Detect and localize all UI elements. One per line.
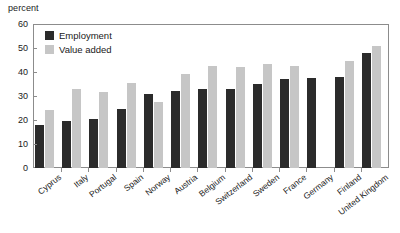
bar-cyprus-value-added	[45, 110, 54, 168]
y-axis-tickmark-50	[33, 48, 37, 49]
bar-group	[361, 25, 388, 168]
bar-group	[306, 25, 333, 168]
bar-united-kingdom-employment	[362, 53, 371, 168]
bar-belgium-employment	[198, 89, 207, 168]
bar-germany-employment	[307, 78, 316, 168]
bar-spain-employment	[117, 109, 126, 168]
bar-france-value-added	[290, 66, 299, 168]
legend-label-employment: Employment	[59, 30, 112, 41]
x-axis-label-austria: Austria	[172, 172, 199, 196]
y-axis-tickmark-20	[33, 120, 37, 121]
x-axis-tickmark	[88, 168, 89, 172]
bar-austria-employment	[171, 91, 180, 168]
y-axis-tick-labels: 0102030405060	[0, 0, 33, 192]
x-axis-label-sweden: Sweden	[251, 172, 281, 199]
x-axis-label-germany: Germany	[302, 172, 336, 201]
x-axis-tickmark	[279, 168, 280, 172]
bar-spain-value-added	[127, 83, 136, 168]
x-axis-tickmark	[143, 168, 144, 172]
bar-portugal-employment	[89, 119, 98, 168]
bar-group	[143, 25, 170, 168]
x-axis-tickmark	[197, 168, 198, 172]
chart-legend: Employment Value added	[45, 30, 112, 58]
x-axis-tickmark	[116, 168, 117, 172]
bar-switzerland-value-added	[236, 67, 245, 168]
bar-group	[225, 25, 252, 168]
y-axis-tickmark-30	[33, 96, 37, 97]
legend-item-value-added: Value added	[45, 44, 112, 55]
bar-norway-value-added	[154, 102, 163, 168]
bar-portugal-value-added	[99, 92, 108, 168]
bar-chart: percent 0102030405060 CyprusItalyPortuga…	[0, 0, 400, 233]
bar-group	[170, 25, 197, 168]
x-axis-tickmark	[306, 168, 307, 172]
bar-france-employment	[280, 79, 289, 168]
bar-group	[334, 25, 361, 168]
x-axis-tickmark	[361, 168, 362, 172]
bar-austria-value-added	[181, 74, 190, 168]
bar-switzerland-employment	[226, 89, 235, 168]
x-axis-tickmark	[225, 168, 226, 172]
x-axis-label-italy: Italy	[72, 172, 90, 189]
x-axis-label-portugal: Portugal	[87, 172, 118, 199]
y-axis-tickmark-10	[33, 144, 37, 145]
bar-united-kingdom-value-added	[372, 46, 381, 168]
bar-finland-value-added	[345, 61, 354, 168]
y-axis-tick-10: 10	[18, 139, 28, 149]
x-axis-tickmark	[61, 168, 62, 172]
x-axis-tickmark	[170, 168, 171, 172]
legend-swatch-employment-icon	[45, 31, 54, 40]
bar-group	[116, 25, 143, 168]
y-axis-tick-60: 60	[18, 19, 28, 29]
bar-sweden-employment	[253, 84, 262, 168]
legend-item-employment: Employment	[45, 30, 112, 41]
x-axis-label-cyprus: Cyprus	[36, 172, 63, 196]
x-axis-tickmark	[334, 168, 335, 172]
bar-italy-employment	[62, 121, 71, 168]
bar-group	[279, 25, 306, 168]
bar-group	[252, 25, 279, 168]
bar-italy-value-added	[72, 89, 81, 168]
bar-sweden-value-added	[263, 64, 272, 168]
x-axis-label-spain: Spain	[122, 172, 145, 193]
bar-group	[197, 25, 224, 168]
y-axis-tick-50: 50	[18, 43, 28, 53]
x-axis-category-labels: CyprusItalyPortugalSpainNorwayAustriaBel…	[0, 172, 400, 233]
y-axis-tick-20: 20	[18, 115, 28, 125]
bar-cyprus-employment	[35, 125, 44, 168]
y-axis-tick-30: 30	[18, 91, 28, 101]
x-axis-tickmark	[252, 168, 253, 172]
bar-belgium-value-added	[208, 66, 217, 168]
y-axis-tick-40: 40	[18, 67, 28, 77]
y-axis-tickmark-40	[33, 72, 37, 73]
legend-swatch-value-added-icon	[45, 45, 54, 54]
bar-norway-employment	[144, 94, 153, 168]
bar-finland-employment	[335, 77, 344, 168]
x-axis-label-norway: Norway	[143, 172, 172, 198]
legend-label-value-added: Value added	[59, 44, 112, 55]
